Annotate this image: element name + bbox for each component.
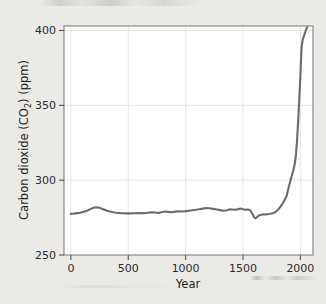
y-tick-label: 300 [35,174,56,187]
y-tick-label: 250 [35,249,56,262]
x-axis-tick-labels: 0500100015002000 [67,262,314,275]
x-tick-label: 1500 [229,262,257,275]
y-axis-title: Carbon dioxide (CO2) (ppm) [17,60,33,220]
y-axis-title-suffix: ) (ppm) [17,60,31,103]
co2-line-chart: 0500100015002000 250300350400 Year Carbo… [0,0,326,304]
figure-page: 0500100015002000 250300350400 Year Carbo… [0,0,326,304]
y-axis-title-prefix: Carbon dioxide (CO [17,108,31,220]
x-tick-label: 500 [118,262,139,275]
x-tick-label: 2000 [286,262,314,275]
x-axis-title: Year [175,277,201,291]
y-tick-label: 400 [35,24,56,37]
x-axis-ticks [71,255,300,260]
y-axis-tick-labels: 250300350400 [35,24,56,262]
chart-svg: 0500100015002000 250300350400 Year Carbo… [0,0,326,304]
y-tick-label: 350 [35,99,56,112]
y-axis-ticks [59,30,64,255]
x-tick-label: 0 [67,262,74,275]
x-tick-label: 1000 [172,262,200,275]
plot-area-background [64,26,313,255]
